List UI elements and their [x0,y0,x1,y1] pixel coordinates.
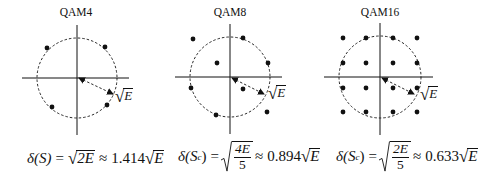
constellation-point [241,87,246,92]
constellation-point [391,86,396,91]
qam8-formula: δ(Sc) = 4E5 ≈ 0.894 √E [178,141,320,173]
constellation-point [415,110,420,115]
constellation-point [364,36,369,41]
constellation-point [265,110,270,115]
constellation-point [341,110,346,115]
constellation-point [105,103,110,108]
constellation-point [341,86,346,91]
radius-arrow [382,78,414,94]
constellation-point [364,61,369,66]
radius-arrow [232,78,264,94]
constellation-point [341,61,346,66]
constellation-point [341,36,346,41]
constellation-point [214,113,219,118]
qam8-constellation [175,24,282,134]
qam16-radius-label: √E [420,86,438,103]
qam4-radius-label: √E [115,88,133,105]
constellation-point [189,86,194,91]
constellation-point [364,86,369,91]
qam4-formula: δ(S) = √2E ≈ 1.414 √E [27,150,164,167]
constellation-point [391,36,396,41]
constellation-point [45,46,50,51]
constellation-point [266,61,271,66]
constellation-point [391,110,396,115]
constellation-point [191,37,196,42]
constellation-point [415,61,420,66]
constellation-point [103,45,108,50]
constellation-point [215,61,220,66]
constellation-point [415,36,420,41]
radius-arrow [79,78,113,94]
constellation-point [391,61,396,66]
qam4-constellation [22,25,129,135]
constellation-point [415,86,420,91]
constellation-point [50,105,55,110]
constellation-point [241,36,246,41]
qam16-formula: δ(Sc) = 2E5 ≈ 0.633 √E [336,141,478,173]
constellation-point [364,110,369,115]
qam16-constellation [324,23,433,135]
qam8-radius-label: √E [268,85,286,102]
